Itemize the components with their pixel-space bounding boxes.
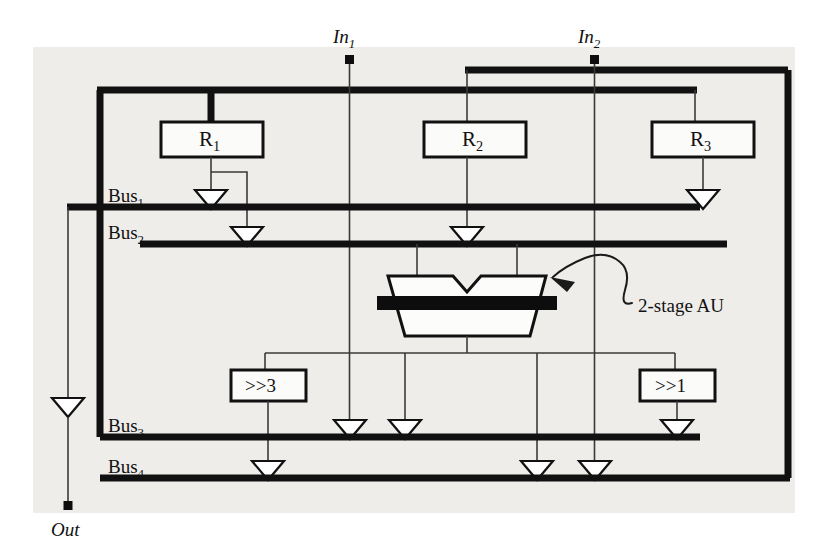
bus-label-bus1: Bus1 [108, 186, 144, 210]
out-terminal [64, 501, 73, 510]
register-label-r1: R1 [199, 129, 220, 153]
in2-terminal [590, 55, 599, 64]
au-pipeline-register-bar [377, 296, 557, 310]
shifter-label-shift1: >>1 [655, 376, 686, 395]
register-label-r3: R3 [690, 129, 711, 153]
out-label: Out [51, 520, 80, 539]
bus-label-bus2: Bus2 [108, 223, 144, 247]
in1-terminal [345, 55, 354, 64]
in2-label: In2 [578, 27, 600, 51]
in1-label: In1 [333, 27, 355, 51]
register-label-r2: R2 [462, 129, 483, 153]
au-annotation-label: 2-stage AU [638, 296, 724, 315]
bus-label-bus4: Bus4 [108, 457, 144, 481]
bus-label-bus3: Bus3 [108, 416, 144, 440]
shifter-label-shift3: >>3 [245, 376, 276, 395]
datapath-diagram: In1 In2 Out R1 R2 R3 Bus1 Bus2 Bus3 Bus4… [0, 0, 828, 554]
